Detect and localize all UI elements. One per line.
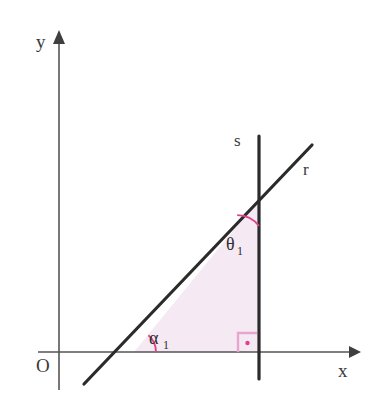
y-axis-label: y	[36, 31, 46, 52]
line-s-label: s	[234, 131, 241, 150]
y-axis	[53, 30, 65, 390]
origin-label: O	[36, 355, 50, 376]
y-axis-arrowhead	[53, 30, 65, 44]
theta-1-symbol: θ	[226, 234, 235, 254]
theta-1-subscript: 1	[237, 244, 243, 258]
x-axis-label: x	[338, 360, 348, 381]
x-axis-arrowhead	[349, 346, 361, 358]
geometry-canvas: y x O s r α 1 θ 1	[0, 0, 379, 403]
line-r-label: r	[303, 160, 309, 179]
alpha-1-symbol: α	[149, 328, 159, 348]
geometry-figure: y x O s r α 1 θ 1	[0, 0, 379, 403]
alpha-1-subscript: 1	[163, 338, 169, 352]
right-angle-dot	[245, 341, 249, 345]
